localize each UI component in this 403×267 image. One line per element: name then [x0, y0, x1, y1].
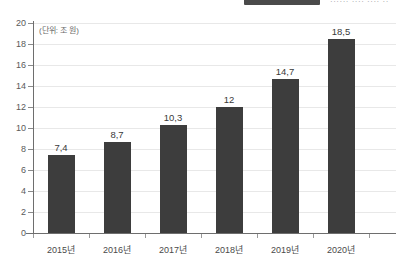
x-axis-category-label: 2018년 [201, 243, 257, 256]
bar-value-label: 8,7 [95, 130, 139, 140]
x-axis-tick [313, 234, 314, 238]
bar [104, 142, 131, 233]
plot-area [34, 23, 396, 233]
bar [160, 125, 187, 233]
x-axis-tick [257, 234, 258, 238]
bar [328, 39, 355, 233]
bar-value-label: 18,5 [319, 27, 363, 37]
x-axis-tick [201, 234, 202, 238]
bar [48, 155, 75, 233]
bar-chart: (단위: 조 원) 02468101214161820 2015년2016년20… [0, 0, 403, 267]
x-axis-category-label: 2019년 [257, 243, 313, 256]
bar [216, 107, 243, 233]
y-axis-label: 14 [2, 82, 26, 91]
y-axis-label: 6 [2, 166, 26, 175]
y-axis-label: 20 [2, 19, 26, 28]
bar [272, 79, 299, 233]
bar-value-label: 12 [207, 95, 251, 105]
y-axis-label: 18 [2, 40, 26, 49]
y-axis-label: 10 [2, 124, 26, 133]
y-axis-label: 8 [2, 145, 26, 154]
chart-page: ······ ···· ···· ·· (단위: 조 원) 0246810121… [0, 0, 403, 267]
bar-value-label: 14,7 [263, 67, 307, 77]
y-axis-label: 2 [2, 208, 26, 217]
y-axis-labels: 02468101214161820 [0, 0, 26, 267]
x-axis-category-label: 2015년 [33, 243, 89, 256]
x-axis-tick [369, 234, 370, 238]
x-axis-tick [89, 234, 90, 238]
x-axis-category-label: 2016년 [89, 243, 145, 256]
y-axis-label: 4 [2, 187, 26, 196]
y-axis-label: 0 [2, 229, 26, 238]
x-axis-tick [145, 234, 146, 238]
x-axis-category-label: 2020년 [313, 243, 369, 256]
bar-value-label: 10,3 [151, 113, 195, 123]
x-axis-tick [33, 234, 34, 238]
bar-value-label: 7,4 [39, 143, 83, 153]
x-axis-category-label: 2017년 [145, 243, 201, 256]
y-axis-label: 16 [2, 61, 26, 70]
x-axis-line [26, 233, 396, 234]
y-axis-label: 12 [2, 103, 26, 112]
